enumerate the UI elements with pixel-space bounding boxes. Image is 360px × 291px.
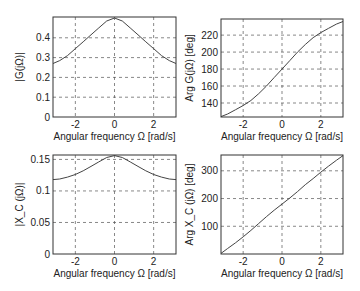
y-tick-label: 200 — [201, 193, 218, 204]
y-axis-label: |X_C (jΩ)| — [14, 183, 25, 227]
x-tick-label: 0 — [279, 119, 285, 130]
x-tick-label: -2 — [71, 256, 80, 267]
subplot-arg-Xc: -202100200300Angular frequency Ω [rad/s]… — [184, 155, 343, 279]
y-tick-label: 0 — [44, 249, 50, 260]
subplot-mag-Xc: -20200.050.10.15Angular frequency Ω [rad… — [14, 154, 176, 279]
y-tick-label: 0.15 — [31, 154, 51, 165]
x-axis-label: Angular frequency Ω [rad/s] — [54, 131, 176, 142]
grid-lines — [53, 155, 176, 254]
x-tick-label: 2 — [318, 119, 324, 130]
y-tick-label: 180 — [201, 64, 218, 75]
x-tick-label: -2 — [71, 119, 80, 130]
y-tick-label: 160 — [201, 81, 218, 92]
x-tick-label: -2 — [239, 119, 248, 130]
y-tick-label: 140 — [201, 98, 218, 109]
subplot-arg-G: -202140160180200220Angular frequency Ω [… — [184, 19, 343, 142]
y-axis-label: |G(jΩ)| — [14, 52, 25, 81]
x-axis-label: Angular frequency Ω [rad/s] — [221, 131, 343, 142]
y-axis-label: Arg G(jΩ) [deg] — [184, 34, 195, 102]
grid-lines — [221, 19, 343, 117]
x-tick-label: -2 — [239, 256, 248, 267]
x-tick-label: 2 — [151, 119, 157, 130]
x-tick-label: 2 — [151, 256, 157, 267]
y-axis-label: Arg X_C (jΩ) [deg] — [184, 163, 195, 245]
y-tick-label: 0 — [44, 112, 50, 123]
data-series-line — [221, 156, 343, 254]
y-tick-label: 100 — [201, 221, 218, 232]
x-tick-label: 2 — [318, 256, 324, 267]
x-tick-label: 0 — [112, 256, 118, 267]
y-tick-label: 220 — [201, 30, 218, 41]
subplot-mag-G: -20200.10.20.30.4Angular frequency Ω [ra… — [14, 17, 176, 142]
y-tick-label: 0.4 — [36, 32, 50, 43]
y-tick-label: 0.05 — [31, 217, 51, 228]
y-tick-label: 0.1 — [36, 92, 50, 103]
figure: -20200.10.20.30.4Angular frequency Ω [ra… — [0, 0, 360, 291]
y-tick-label: 0.3 — [36, 52, 50, 63]
x-tick-label: 0 — [112, 119, 118, 130]
y-tick-label: 0.1 — [36, 185, 50, 196]
y-tick-label: 200 — [201, 47, 218, 58]
y-tick-label: 0.2 — [36, 72, 50, 83]
grid-lines — [53, 17, 176, 117]
x-axis-label: Angular frequency Ω [rad/s] — [54, 268, 176, 279]
x-axis-label: Angular frequency Ω [rad/s] — [221, 268, 343, 279]
y-tick-label: 300 — [201, 165, 218, 176]
x-tick-label: 0 — [279, 256, 285, 267]
